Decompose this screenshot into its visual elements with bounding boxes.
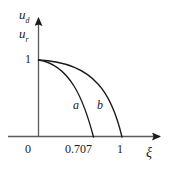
y-axis-label-ur-sub: r — [26, 35, 29, 44]
x-axis-label-xi: ξ — [146, 146, 152, 160]
figure-container: ud ur 1 0 0.707 1 ξ a b — [0, 0, 173, 172]
x-tick-label-0: 0 — [25, 143, 31, 155]
y-tick-label-1: 1 — [25, 53, 31, 65]
curve-a — [39, 60, 94, 137]
x-tick-label-1: 1 — [117, 143, 123, 155]
y-axis-label-ud-sub: d — [26, 16, 30, 25]
y-axis-label-ur: ur — [19, 27, 29, 44]
y-axis-label-ud: ud — [19, 8, 30, 25]
curve-label-a: a — [73, 99, 79, 111]
x-tick-label-0707: 0.707 — [65, 143, 92, 155]
curve-label-b: b — [97, 99, 103, 111]
